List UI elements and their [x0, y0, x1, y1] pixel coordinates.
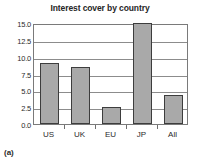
y-tick-label: 0.0 — [21, 121, 31, 130]
y-tick-label: 12.5 — [17, 36, 31, 45]
x-tick — [126, 125, 127, 129]
bar-uk[interactable] — [71, 67, 90, 124]
x-tick-label-jp: JP — [137, 130, 146, 139]
bar-all[interactable] — [164, 95, 183, 124]
x-tick-label-uk: UK — [74, 130, 85, 139]
bar-eu[interactable] — [102, 107, 121, 124]
x-tick — [157, 125, 158, 129]
x-axis: USUKEUJPAll — [33, 130, 188, 144]
y-axis: 0.02.55.07.510.012.515.0 — [0, 24, 31, 125]
bar-slot — [71, 25, 90, 124]
bar-us[interactable] — [40, 63, 59, 124]
bar-slot — [40, 25, 59, 124]
x-tick-label-all: All — [168, 130, 177, 139]
bar-series — [34, 25, 187, 124]
bar-slot — [102, 25, 121, 124]
chart-title: Interest cover by country — [0, 3, 200, 13]
x-tick — [64, 125, 65, 129]
bar-slot — [133, 25, 152, 124]
x-tick — [95, 125, 96, 129]
y-tick-label: 7.5 — [21, 70, 31, 79]
y-tick-label: 10.0 — [17, 53, 31, 62]
plot-area — [33, 24, 188, 125]
x-tick-label-eu: EU — [105, 130, 116, 139]
panel-caption: (a) — [4, 148, 14, 157]
x-tick-label-us: US — [43, 130, 54, 139]
bar-slot — [164, 25, 183, 124]
y-tick-label: 2.5 — [21, 104, 31, 113]
bar-jp[interactable] — [133, 23, 152, 124]
bar-chart-figure: Interest cover by country 0.02.55.07.510… — [0, 0, 200, 166]
y-tick-label: 5.0 — [21, 87, 31, 96]
y-tick-label: 15.0 — [17, 20, 31, 29]
